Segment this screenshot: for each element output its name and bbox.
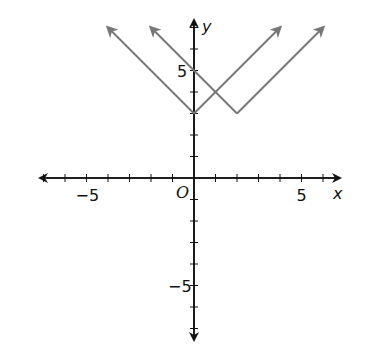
absolute-value-ray-2 bbox=[237, 28, 323, 114]
y-tick-label: 5 bbox=[177, 62, 187, 81]
absolute-value-ray-1 bbox=[194, 28, 280, 114]
series-group bbox=[108, 28, 323, 114]
y-tick-label: −5 bbox=[168, 277, 192, 296]
x-tick-label: 5 bbox=[297, 186, 307, 205]
x-tick-label: −5 bbox=[76, 186, 100, 205]
y-axis-label: y bbox=[201, 17, 212, 36]
x-axis-label: x bbox=[332, 184, 343, 203]
origin-label: O bbox=[176, 183, 189, 202]
coordinate-plane: x y O −555−5 bbox=[0, 0, 369, 350]
